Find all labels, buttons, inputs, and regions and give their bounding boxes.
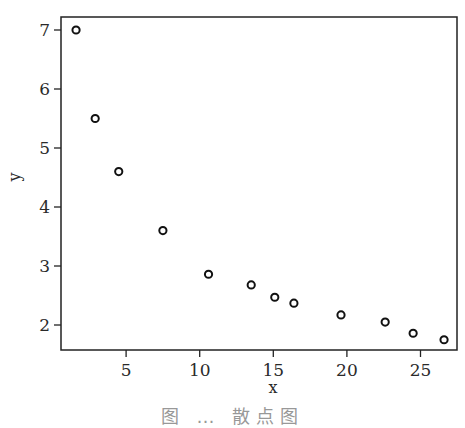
y-tick-label: 5 bbox=[39, 138, 50, 158]
y-tick-label: 7 bbox=[39, 20, 50, 40]
x-tick-label: 25 bbox=[410, 360, 432, 380]
scatter-chart: 234567 510152025 x y bbox=[0, 0, 465, 400]
y-tick-label: 3 bbox=[39, 256, 50, 276]
data-point bbox=[337, 311, 344, 318]
data-point bbox=[290, 300, 297, 307]
plot-frame bbox=[61, 17, 457, 350]
data-point bbox=[440, 336, 447, 343]
x-axis-label: x bbox=[268, 378, 277, 397]
y-tick-label: 4 bbox=[39, 197, 50, 217]
x-tick-label: 20 bbox=[336, 360, 358, 380]
x-tick-label: 15 bbox=[262, 360, 284, 380]
y-tick-label: 2 bbox=[39, 315, 50, 335]
data-point bbox=[115, 168, 122, 175]
data-point bbox=[205, 271, 212, 278]
data-point bbox=[382, 318, 389, 325]
y-tick-label: 6 bbox=[39, 79, 50, 99]
data-point bbox=[271, 294, 278, 301]
data-point bbox=[92, 115, 99, 122]
x-tick-label: 10 bbox=[189, 360, 211, 380]
data-point bbox=[159, 227, 166, 234]
y-axis: 234567 bbox=[39, 20, 61, 335]
figure-caption: 图 … 散点图 bbox=[0, 402, 465, 428]
data-points bbox=[72, 26, 447, 343]
data-point bbox=[248, 281, 255, 288]
data-point bbox=[72, 26, 79, 33]
x-axis: 510152025 bbox=[121, 350, 432, 380]
x-tick-label: 5 bbox=[121, 360, 132, 380]
data-point bbox=[410, 330, 417, 337]
y-axis-label: y bbox=[5, 172, 24, 182]
